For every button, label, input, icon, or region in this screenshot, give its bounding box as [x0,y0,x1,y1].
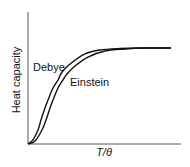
y-axis-label: Heat capacity [10,47,22,114]
debye-series-label: Debye [33,61,65,73]
x-axis-label: T/θ [96,146,112,158]
einstein-series-label: Einstein [70,76,109,88]
